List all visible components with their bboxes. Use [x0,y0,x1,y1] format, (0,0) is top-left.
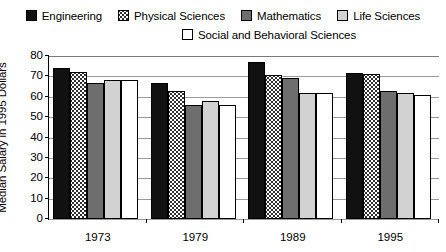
x-tick-label-1995: 1995 [342,231,440,243]
legend-label-engineering: Engineering [42,10,102,22]
bar-group-1973: 1973 [49,56,147,219]
bar-1979-life-sciences [202,101,219,219]
bar-group-1989: 1989 [244,56,342,219]
bar-1995-engineering [346,73,363,219]
bar-1989-engineering [248,62,265,219]
x-tick-label-1989: 1989 [244,231,342,243]
legend-swatch-life-sciences [337,10,348,21]
y-tick-label-20: 20 [9,172,49,183]
y-tick-label-80: 80 [9,50,49,61]
bar-1973-life-sciences [104,80,121,219]
chart-legend: Engineering Physical Sciences Mathematic… [0,6,446,44]
plot-area: 80706050403020100 1973197919891995 [48,56,439,220]
x-tick-mark-1989 [341,219,342,223]
legend-label-mathematics: Mathematics [257,10,321,22]
y-tick-label-0: 0 [9,213,49,224]
x-tick-mark-1979 [243,219,244,223]
bar-group-1979: 1979 [147,56,245,219]
legend-label-physical-sciences: Physical Sciences [134,10,225,22]
legend-item-physical-sciences: Physical Sciences [118,10,225,22]
bar-1995-social-and-behavioral-sciences [414,95,431,219]
legend-item-social-and-behavioral-sciences: Social and Behavioral Sciences [182,29,356,41]
bar-group-1995: 1995 [342,56,440,219]
x-tick-mark-1995 [438,219,439,223]
legend-row-1: Engineering Physical Sciences Mathematic… [0,6,446,25]
bar-1973-social-and-behavioral-sciences [121,80,138,219]
bar-1989-mathematics [282,78,299,219]
bar-1995-physical-sciences [363,74,380,219]
x-tick-mark-1973 [146,219,147,223]
legend-label-social-and-behavioral-sciences: Social and Behavioral Sciences [198,29,356,41]
bar-1979-social-and-behavioral-sciences [219,105,236,219]
y-tick-label-30: 30 [9,152,49,163]
bar-1979-engineering [151,83,168,220]
legend-swatch-engineering [26,10,37,21]
bar-1979-mathematics [185,105,202,219]
y-tick-label-40: 40 [9,132,49,143]
legend-label-life-sciences: Life Sciences [353,10,420,22]
bar-1995-mathematics [380,91,397,219]
bar-1979-physical-sciences [168,91,185,219]
y-tick-label-50: 50 [9,111,49,122]
bar-1989-physical-sciences [265,75,282,219]
y-tick-label-10: 10 [9,193,49,204]
y-tick-label-60: 60 [9,91,49,102]
x-tick-label-1979: 1979 [147,231,245,243]
legend-item-engineering: Engineering [26,10,102,22]
bar-1973-physical-sciences [70,72,87,219]
gridline-0 [49,219,439,220]
y-tick-label-70: 70 [9,70,49,81]
bar-chart: Engineering Physical Sciences Mathematic… [0,0,446,252]
bar-groups: 1973197919891995 [49,56,439,219]
bar-1995-life-sciences [397,93,414,219]
bar-1989-social-and-behavioral-sciences [316,93,333,219]
legend-row-2: Social and Behavioral Sciences [0,25,446,44]
legend-swatch-social-and-behavioral-sciences [182,29,193,40]
legend-item-life-sciences: Life Sciences [337,10,420,22]
bar-1989-life-sciences [299,93,316,219]
legend-swatch-mathematics [241,10,252,21]
x-tick-label-1973: 1973 [49,231,147,243]
bar-1973-mathematics [87,83,104,220]
legend-swatch-physical-sciences [118,10,129,21]
legend-item-mathematics: Mathematics [241,10,321,22]
bar-1973-engineering [53,68,70,219]
